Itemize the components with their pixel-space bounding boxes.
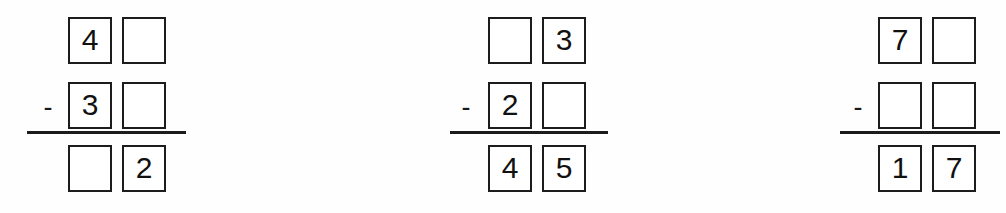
subtraction-problem-3: - 7 1 7 xyxy=(837,0,1006,213)
subtrahend-ones-digit xyxy=(544,84,584,127)
minuend-ones-box[interactable]: 3 xyxy=(542,17,586,64)
difference-tens-digit: 4 xyxy=(490,147,530,190)
difference-ones-digit: 2 xyxy=(124,147,164,190)
minuend-ones-box[interactable] xyxy=(122,17,166,64)
subtrahend-tens-digit xyxy=(880,84,920,127)
minuend-ones-box[interactable] xyxy=(932,17,976,64)
minuend-tens-digit: 4 xyxy=(70,19,110,62)
difference-ones-digit: 5 xyxy=(544,147,584,190)
minuend-tens-box[interactable]: 7 xyxy=(878,17,922,64)
minus-operator-icon: - xyxy=(459,94,473,121)
subtrahend-tens-digit: 3 xyxy=(70,84,110,127)
minuend-tens-box[interactable]: 4 xyxy=(68,17,112,64)
minuend-tens-box[interactable] xyxy=(488,17,532,64)
subtrahend-tens-box[interactable]: 3 xyxy=(68,82,112,129)
answer-rule xyxy=(450,131,608,134)
difference-tens-box[interactable]: 4 xyxy=(488,145,532,192)
subtraction-worksheet: - 4 3 2 - 3 xyxy=(0,0,1006,213)
minuend-tens-digit xyxy=(490,19,530,62)
subtrahend-ones-box[interactable] xyxy=(542,82,586,129)
difference-ones-box[interactable]: 7 xyxy=(932,145,976,192)
answer-rule xyxy=(27,131,186,134)
subtrahend-ones-digit xyxy=(124,84,164,127)
difference-ones-box[interactable]: 2 xyxy=(122,145,166,192)
difference-tens-box[interactable]: 1 xyxy=(878,145,922,192)
difference-tens-box[interactable] xyxy=(68,145,112,192)
minuend-ones-digit xyxy=(124,19,164,62)
difference-tens-digit xyxy=(70,147,110,190)
minus-operator-icon: - xyxy=(851,94,865,121)
difference-tens-digit: 1 xyxy=(880,147,920,190)
subtrahend-ones-box[interactable] xyxy=(122,82,166,129)
minus-operator-icon: - xyxy=(41,94,55,121)
subtrahend-ones-digit xyxy=(934,84,974,127)
subtrahend-tens-box[interactable] xyxy=(878,82,922,129)
minuend-ones-digit xyxy=(934,19,974,62)
difference-ones-box[interactable]: 5 xyxy=(542,145,586,192)
difference-ones-digit: 7 xyxy=(934,147,974,190)
subtrahend-ones-box[interactable] xyxy=(932,82,976,129)
subtrahend-tens-box[interactable]: 2 xyxy=(488,82,532,129)
subtrahend-tens-digit: 2 xyxy=(490,84,530,127)
minuend-ones-digit: 3 xyxy=(544,19,584,62)
minuend-tens-digit: 7 xyxy=(880,19,920,62)
subtraction-problem-1: - 4 3 2 xyxy=(27,0,227,213)
answer-rule xyxy=(840,131,1000,134)
subtraction-problem-2: - 3 2 4 5 xyxy=(447,0,647,213)
